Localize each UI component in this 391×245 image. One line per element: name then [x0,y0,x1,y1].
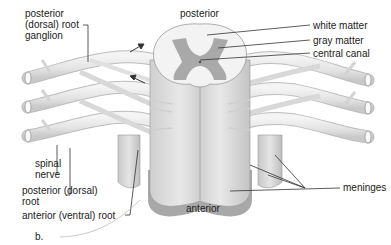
label-ganglion-1: posterior [25,8,64,19]
label-gray-matter: gray matter [313,35,364,46]
panel-label: b. [35,231,43,242]
spinal-cord [148,24,252,217]
label-anterior-bottom: anterior [186,203,220,214]
label-anterior-root: anterior (ventral) root [22,210,115,221]
right-spinal-nerves [230,57,371,143]
label-spinal-nerve-1: spinal [35,158,61,169]
right-meninges-flap [258,135,282,188]
label-posterior-root-2: root [22,196,39,207]
label-central-canal: central canal [313,48,370,59]
spinal-cord-diagram: posterior anterior posterior (dorsal) ro… [0,0,391,245]
label-white-matter: white matter [313,20,367,31]
label-posterior-top: posterior [180,8,219,19]
label-spinal-nerve-2: nerve [35,169,60,180]
label-ganglion-3: ganglion [25,30,63,41]
label-meninges: meninges [343,182,386,193]
label-ganglion-2: (dorsal) root [25,19,79,30]
label-posterior-root-1: posterior (dorsal) [22,185,98,196]
